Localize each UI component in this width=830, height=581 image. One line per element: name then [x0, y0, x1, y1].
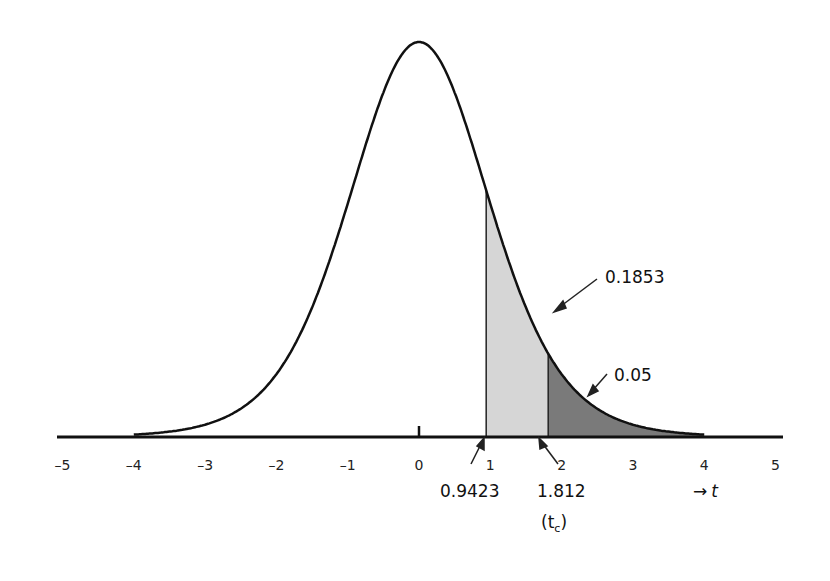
x-tick-label: –1 — [340, 457, 356, 473]
t-distribution-chart: –5–4–3–2–1012345 0.1853 0.05 0.9423 1.81… — [0, 0, 830, 581]
x-tick-label: –2 — [268, 457, 284, 473]
axis-label-t: →t — [693, 481, 719, 501]
x-tick-label: 1 — [486, 457, 495, 473]
label-tc: (tc) — [541, 512, 567, 535]
x-tick-label: –4 — [126, 457, 142, 473]
x-tick-label: 4 — [700, 457, 709, 473]
x-tick-label: 3 — [628, 457, 637, 473]
label-area-0-05: 0.05 — [614, 365, 652, 385]
x-tick-label: 2 — [557, 457, 566, 473]
label-t-1-812: 1.812 — [537, 481, 586, 501]
label-t-0-9423: 0.9423 — [440, 481, 499, 501]
x-tick-label: 5 — [771, 457, 780, 473]
x-tick-labels: –5–4–3–2–1012345 — [55, 457, 780, 473]
x-tick-label: –5 — [55, 457, 71, 473]
label-area-0-1853: 0.1853 — [605, 267, 664, 287]
light-region — [486, 190, 548, 437]
shaded-regions — [486, 190, 704, 437]
x-tick-label: –3 — [197, 457, 213, 473]
x-tick-label: 0 — [415, 457, 424, 473]
